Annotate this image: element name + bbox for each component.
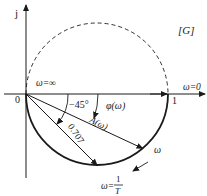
plane-label: [G] [178,24,195,36]
imag-axis-label: j [14,7,18,19]
direction-arrow [133,162,148,171]
omega-label: ω [154,144,161,155]
phase-label: φ(ω) [106,100,126,112]
omega-break-prefix: ω= [101,181,114,191]
phase-arc [94,94,98,118]
nyquist-diagram: j [G] ω=∞ ω=0 0 1 −45° φ(ω) A(ω) 0.707 ω… [0,0,207,196]
unit-label: 1 [172,95,177,106]
radius-label: 0.707 [66,122,86,146]
magnitude-label: A(ω) [87,114,110,133]
origin-label: 0 [15,94,20,105]
omega-infinity-label: ω=∞ [36,78,56,88]
angle-45-label: −45° [69,99,89,110]
omega-zero-label: ω=0 [183,82,201,92]
omega-break-numerator: 1 [116,174,121,184]
omega-break-denominator: T [115,186,121,196]
